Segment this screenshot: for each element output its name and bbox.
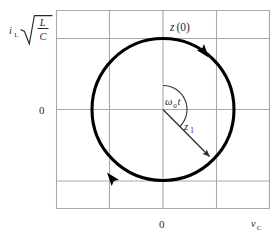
phase-plane-plot: z (0) ω 0 t z 1 i L L C 0 0: [0, 0, 279, 240]
radical-sign-icon: [21, 16, 53, 44]
y-axis-label-current: i: [9, 25, 12, 36]
y-axis-label: i L L C: [9, 16, 53, 44]
x-axis-origin-label: 0: [159, 218, 165, 230]
x-axis-label-subscript-C: C: [257, 224, 262, 231]
radius-label-subscript-one: 1: [190, 127, 194, 135]
phase-plane-figure: z (0) ω 0 t z 1 i L L C 0 0: [0, 0, 279, 240]
initial-state-label-z: z: [169, 21, 175, 33]
y-axis-origin-label: 0: [39, 104, 45, 116]
initial-state-label-arg: (0): [177, 21, 191, 34]
radical-numerator-L: L: [39, 17, 46, 28]
radical-denominator-C: C: [40, 31, 48, 42]
radius-label-z: z: [183, 120, 189, 132]
y-axis-label-subscript-L: L: [14, 31, 18, 38]
angle-label-omega: ω: [165, 96, 172, 107]
x-axis-label-voltage: v: [251, 218, 256, 229]
initial-state-label: z (0): [169, 21, 190, 34]
x-axis-label: v C: [251, 218, 262, 231]
